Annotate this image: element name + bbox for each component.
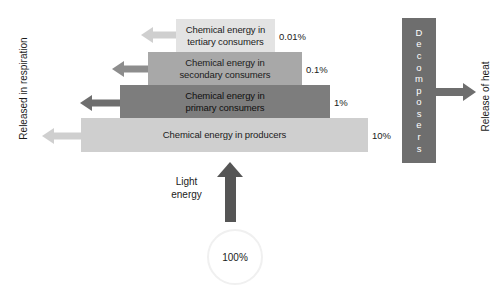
percent-label-primary: 1% [334,97,348,108]
bar-producers: Chemical energy in producers [81,118,368,152]
decomposers-letter: s [417,143,422,155]
light-energy-line1: Light [176,176,198,187]
bar-producers-line1: Chemical energy in producers [163,129,286,141]
percent-label-producers: 10% [372,130,391,141]
decomposers-letter: D [416,27,423,39]
decomposers-letter: m [415,73,423,85]
bar-primary-consumers: Chemical energy in primary consumers [120,85,330,118]
decomposers-letter: e [416,38,421,50]
decomposers-letter: e [416,119,421,131]
bar-tertiary-line1: Chemical energy in [186,24,266,36]
decomposers-box: D e c o m p o s e r s [402,18,436,163]
bar-primary-line2: primary consumers [185,102,264,114]
bar-tertiary-consumers: Chemical energy in tertiary consumers [176,19,275,52]
percent-label-secondary: 0.1% [306,64,328,75]
arrow-head [112,61,124,77]
input-energy-value: 100% [222,252,248,263]
decomposers-letter: o [416,62,421,74]
light-energy-label: Light energy [160,175,213,201]
respiration-label: Released in respiration [18,24,29,154]
decomposers-letter: p [416,85,421,97]
arrow-shaft [225,175,236,222]
bar-secondary-line1: Chemical energy in [185,57,265,69]
decomposers-letter: s [417,108,422,120]
respiration-arrow-tertiary [141,26,181,44]
arrow-head [463,83,476,101]
bar-secondary-line2: secondary consumers [179,69,270,81]
decomposers-letter: o [416,96,421,108]
bar-primary-line1: Chemical energy in [185,90,265,102]
bar-secondary-consumers: Chemical energy in secondary consumers [148,52,302,85]
respiration-arrow-secondary [112,60,153,78]
percent-label-tertiary: 0.01% [279,31,306,42]
input-energy-circle: 100% [207,229,263,285]
arrow-head [80,95,92,111]
bar-tertiary-line2: tertiary consumers [187,36,263,48]
release-of-heat-label: Release of heat [480,27,491,167]
energy-flow-diagram: Released in respiration Chemical energy … [0,0,503,288]
arrow-shaft [436,88,464,96]
decomposers-letter: c [417,50,422,62]
arrow-head [141,27,153,43]
respiration-arrow-primary [80,93,125,112]
release-of-heat-arrow [436,82,476,101]
arrow-head [42,128,54,144]
respiration-arrow-producers [42,126,86,145]
decomposers-letter: r [417,131,420,143]
light-energy-arrow [217,162,244,222]
light-energy-line2: energy [171,189,202,200]
